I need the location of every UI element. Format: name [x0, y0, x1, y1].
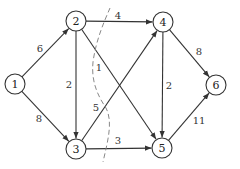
node-4: 4 [153, 12, 173, 32]
edge-weight-3-5: 3 [115, 135, 121, 146]
edge-weight-2-4: 4 [115, 10, 121, 21]
graph-svg: 68241532811 123456 [0, 0, 240, 169]
edge-weight-2-5: 1 [96, 62, 102, 73]
edge-2-4 [86, 21, 153, 22]
edge-labels: 68241532811 [36, 10, 206, 146]
edge-weight-4-6: 8 [196, 46, 202, 57]
dashed-cut-curve [93, 8, 110, 162]
graph-diagram: 68241532811 123456 [0, 0, 240, 169]
node-label: 4 [160, 16, 167, 29]
node-label: 1 [12, 78, 19, 91]
node-label: 2 [73, 15, 80, 28]
edge-4-5 [162, 32, 163, 138]
node-2: 2 [66, 11, 86, 31]
node-label: 3 [73, 143, 80, 156]
node-1: 1 [5, 74, 25, 94]
node-label: 6 [213, 79, 220, 92]
edge-2-5 [82, 29, 157, 139]
node-3: 3 [66, 139, 86, 159]
edge-4-6 [169, 30, 209, 77]
edge-weight-2-3: 2 [66, 79, 72, 90]
edge-weight-3-4: 5 [93, 102, 99, 113]
edge-1-3 [22, 91, 69, 141]
edge-weight-1-3: 8 [36, 113, 42, 124]
edge-weight-1-2: 6 [37, 43, 43, 54]
edge-weight-5-6: 11 [193, 115, 206, 126]
node-label: 5 [159, 142, 166, 155]
node-5: 5 [152, 138, 172, 158]
edge-weight-4-5: 2 [166, 80, 172, 91]
edge-3-5 [86, 148, 152, 149]
edge-1-2 [22, 29, 69, 77]
edges [22, 21, 209, 149]
node-6: 6 [206, 75, 226, 95]
